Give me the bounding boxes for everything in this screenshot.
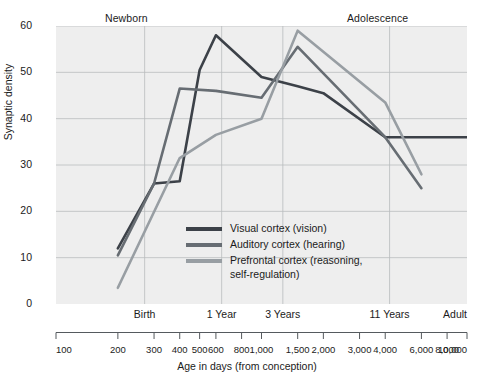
y-tick-label: 50 [0, 65, 32, 77]
synaptic-density-chart: Newborn Adolescence Synaptic density 010… [0, 0, 494, 380]
x-tick-label: 500 [192, 344, 208, 355]
x-tick-label: 1,500 [286, 344, 310, 355]
x-tick-label: 4,000 [373, 344, 397, 355]
x-axis-title: Age in days (from conception) [0, 360, 494, 372]
x-tick-label: 100 [56, 344, 72, 355]
legend-label: Visual cortex (vision) [230, 222, 327, 236]
stage-label-3-years: 3 Years [265, 308, 300, 320]
x-tick-label: 800 [234, 344, 250, 355]
y-axis-title: Synaptic density [2, 32, 14, 172]
legend-item-2: Auditory cortex (hearing) [186, 238, 362, 252]
legend-item-1: Visual cortex (vision) [186, 222, 362, 236]
y-tick-label: 30 [0, 158, 32, 170]
stage-label-birth: Birth [134, 308, 156, 320]
series-line-1 [118, 35, 467, 248]
stage-label-adult: Adult [443, 308, 467, 320]
legend-swatch-icon [186, 259, 222, 263]
y-tick-label: 20 [0, 204, 32, 216]
x-tick-label: 300 [146, 344, 162, 355]
y-tick-label: 60 [0, 19, 32, 31]
legend-swatch-icon [186, 227, 222, 231]
x-tick-label: 200 [110, 344, 126, 355]
x-tick-label: 1,000 [250, 344, 274, 355]
legend-label: Auditory cortex (hearing) [230, 238, 345, 252]
x-tick-label: 3,000 [348, 344, 372, 355]
legend-label: Prefrontal cortex (reasoning, self-regul… [230, 254, 362, 281]
legend-swatch-icon [186, 243, 222, 247]
x-tick-label: 2,000 [311, 344, 335, 355]
x-axis-ruler [0, 330, 494, 344]
x-tick-label: 6,000 [410, 344, 434, 355]
stage-label-1-year: 1 Year [207, 308, 237, 320]
x-tick-label: 600 [208, 344, 224, 355]
era-label-adolescence: Adolescence [347, 12, 408, 24]
legend-item-3: Prefrontal cortex (reasoning, self-regul… [186, 254, 362, 281]
legend: Visual cortex (vision)Auditory cortex (h… [186, 222, 362, 284]
stage-label-11-years: 11 Years [370, 308, 410, 320]
era-label-newborn: Newborn [105, 12, 148, 24]
x-tick-label: 400 [172, 344, 188, 355]
y-tick-label: 40 [0, 112, 32, 124]
x-tick-label: 10,000 [438, 344, 467, 355]
y-tick-label: 0 [0, 297, 32, 309]
y-tick-label: 10 [0, 251, 32, 263]
